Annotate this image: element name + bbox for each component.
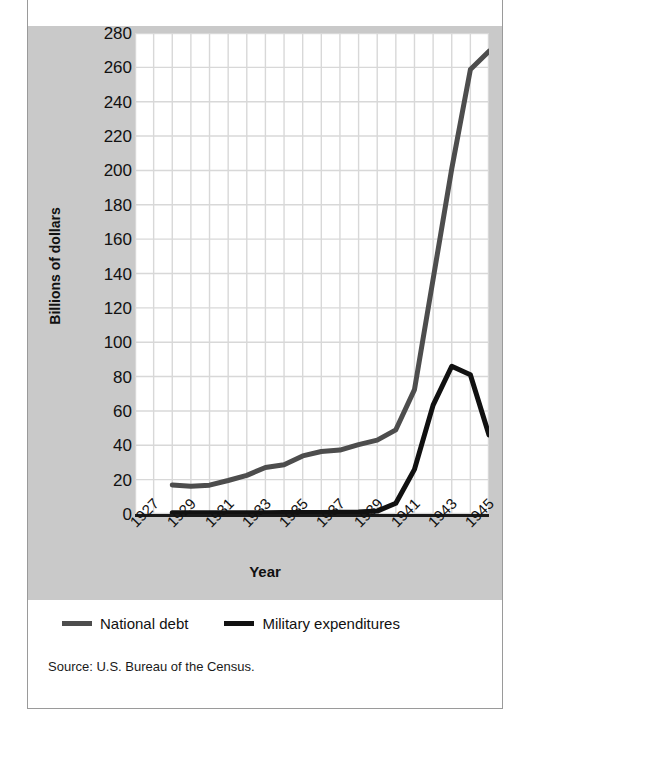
y-tick-label: 240: [60, 93, 132, 110]
legend-item: National debt: [62, 615, 188, 632]
y-axis-tick-labels: 020406080100120140160180200220240260280: [60, 26, 132, 541]
y-tick-label: 180: [60, 196, 132, 213]
x-axis-title: Year: [28, 563, 502, 580]
y-tick-label: 280: [60, 25, 132, 42]
chart-legend: National debtMilitary expenditures: [28, 600, 502, 646]
y-tick-label: 120: [60, 299, 132, 316]
legend-label: Military expenditures: [262, 615, 400, 632]
legend-label: National debt: [100, 615, 188, 632]
y-tick-label: 100: [60, 334, 132, 351]
plot-area: [135, 33, 489, 517]
plot-svg: [135, 33, 489, 514]
legend-swatch-icon: [224, 621, 254, 626]
y-tick-label: 160: [60, 231, 132, 248]
y-tick-label: 40: [60, 437, 132, 454]
chart-title: [28, 0, 502, 26]
series-line: [172, 51, 489, 486]
y-tick-label: 60: [60, 402, 132, 419]
legend-item: Military expenditures: [224, 615, 400, 632]
y-tick-label: 140: [60, 265, 132, 282]
chart-figure: Billions of dollars 02040608010012014016…: [27, 0, 503, 709]
y-tick-label: 0: [60, 506, 132, 523]
y-tick-label: 260: [60, 59, 132, 76]
y-tick-label: 220: [60, 128, 132, 145]
series-line: [172, 366, 489, 513]
source-note: Source: U.S. Bureau of the Census.: [28, 646, 502, 686]
y-tick-label: 200: [60, 162, 132, 179]
y-tick-label: 20: [60, 471, 132, 488]
legend-swatch-icon: [62, 621, 92, 626]
y-tick-label: 80: [60, 368, 132, 385]
